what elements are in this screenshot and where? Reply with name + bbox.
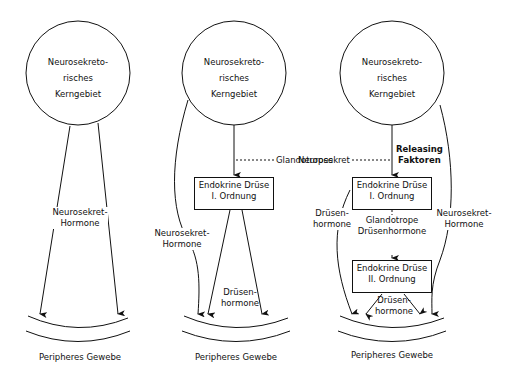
druesen-hormone-label-2: Drüsen-hormone [218, 287, 262, 309]
neurosekret-hormone-label-2: Neurosekret-Hormone [152, 228, 212, 250]
releasing-faktoren-label: ReleasingFaktoren [396, 144, 443, 166]
druesen-hormone-left-label: Drüsen-hormone [312, 208, 352, 230]
neurosekret-label: Neurosekret [298, 155, 350, 166]
gland-2-box: Endokrine DrüseII. Ordnung [352, 260, 432, 293]
gland-1-box-panel3: Endokrine DrüseI. Ordnung [352, 177, 432, 210]
tissue-label-3: Peripheres Gewebe [342, 350, 442, 361]
glandotrope-druesenhormone-label: GlandotropeDrüsenhormone [356, 215, 428, 237]
nucleus-label-1: Neurosekreto-rischesKerngebiet [40, 57, 116, 100]
nucleus-label-2: Neurosekreto-rischesKerngebiet [196, 57, 272, 100]
nucleus-label-3: Neurosekreto-rischesKerngebiet [354, 57, 430, 100]
gland-1-box-panel2: Endokrine DrüseI. Ordnung [194, 177, 274, 210]
tissue-label-1: Peripheres Gewebe [30, 352, 130, 363]
neurosekret-hormone-right-label: Neurosekret-Hormone [434, 208, 494, 230]
druesen-hormone-label-3: Drüsen-hormone [372, 295, 416, 317]
neurosekret-hormone-label-1: Neurosekret-Hormone [52, 207, 108, 229]
tissue-label-2: Peripheres Gewebe [186, 352, 286, 363]
